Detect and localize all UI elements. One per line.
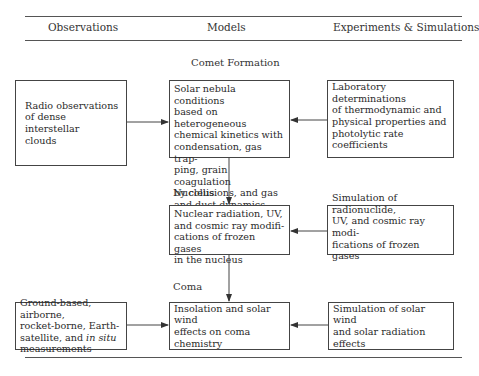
box-text: Insolation and solar wind effects on com… <box>174 303 285 349</box>
stage-label-comet-formation: Comet Formation <box>191 57 280 68</box>
box-text: Solar nebula conditions based on heterog… <box>174 83 283 210</box>
box-nuclear-radiation-model: Nuclear radiation, UV, and cosmic ray mo… <box>169 205 290 255</box>
box-solar-nebula-model: Solar nebula conditions based on heterog… <box>169 80 290 158</box>
box-text: Simulation of solar wind and solar radia… <box>333 303 449 349</box>
top-rule <box>25 16 462 17</box>
header-bottom-rule <box>25 40 462 41</box>
box-ground-based-measurements: Ground-based, airborne, rocket-borne, Ea… <box>15 302 127 350</box>
box-text: Radio observations of dense interstellar… <box>25 100 122 146</box>
box-laboratory-determinations: Laboratory determinations of thermodynam… <box>327 80 454 158</box>
box-insolation-model: Insolation and solar wind effects on com… <box>169 302 290 350</box>
box-radionuclide-simulation: Simulation of radionuclide, UV, and cosm… <box>327 205 454 255</box>
column-header-experiments: Experiments & Simulations <box>333 21 479 33</box>
box-text: Simulation of radionuclide, UV, and cosm… <box>332 192 449 262</box>
box-solar-wind-simulation: Simulation of solar wind and solar radia… <box>328 302 454 350</box>
box-radio-observations: Radio observations of dense interstellar… <box>15 80 127 166</box>
stage-label-coma: Coma <box>173 281 202 292</box>
box-text: Nuclear radiation, UV, and cosmic ray mo… <box>174 208 284 265</box>
box-text: Laboratory determinations of thermodynam… <box>332 81 449 151</box>
column-header-models: Models <box>207 21 246 33</box>
bottom-rule <box>25 357 462 358</box>
box-text: Ground-based, airborne, rocket-borne, Ea… <box>20 297 122 355</box>
column-header-observations: Observations <box>48 21 118 33</box>
italic-in-situ: in situ <box>86 332 116 343</box>
